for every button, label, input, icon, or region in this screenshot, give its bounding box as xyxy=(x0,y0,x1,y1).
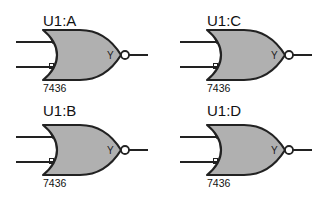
gate-ref-label: U1:C xyxy=(207,12,241,29)
gate-part-label: 7436 xyxy=(207,177,231,189)
gate-u1b[interactable]: U1:B 7436 Y xyxy=(16,102,148,189)
gate-ref-label: U1:D xyxy=(207,102,241,119)
output-pin-label: Y xyxy=(271,145,278,156)
schematic-canvas: U1:A 7436 Y U1:C 7436 Y U1:B 7436 Y U1:D… xyxy=(0,0,332,201)
output-pin-label: Y xyxy=(271,50,278,61)
nor-gate-icon xyxy=(16,30,148,80)
gate-u1d[interactable]: U1:D 7436 Y xyxy=(180,102,312,189)
gate-part-label: 7436 xyxy=(207,82,231,94)
output-pin-label: Y xyxy=(107,145,114,156)
nor-gate-icon xyxy=(180,30,312,80)
gate-part-label: 7436 xyxy=(43,82,67,94)
gate-u1c[interactable]: U1:C 7436 Y xyxy=(180,12,312,94)
gate-ref-label: U1:A xyxy=(43,12,76,29)
gate-ref-label: U1:B xyxy=(43,102,76,119)
nor-gate-icon xyxy=(16,125,148,175)
nor-gate-icon xyxy=(180,125,312,175)
gate-u1a[interactable]: U1:A 7436 Y xyxy=(16,12,148,94)
gate-part-label: 7436 xyxy=(43,177,67,189)
output-pin-label: Y xyxy=(107,50,114,61)
